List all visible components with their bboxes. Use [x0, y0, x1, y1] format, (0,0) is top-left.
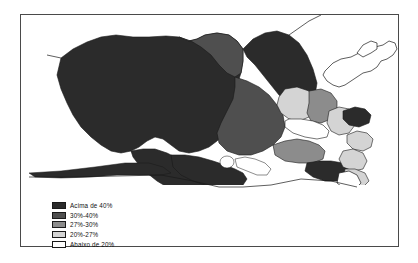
legend-row-30-40: 30%-40%	[52, 211, 142, 221]
map-legend: Acima de 40% 30%-40% 27%-30% 20%-27% Aba…	[52, 201, 142, 249]
region-sul-litoral-oeste	[29, 163, 171, 178]
legend-row-27-30: 27%-30%	[52, 220, 142, 230]
figure-container: Acima de 40% 30%-40% 27%-30% 20%-27% Aba…	[0, 0, 418, 263]
region-litoral-fingers-a	[347, 131, 373, 151]
region-litoral-leste-a	[273, 139, 325, 163]
region-ilha-nordeste	[323, 41, 397, 87]
legend-label-20-27: 20%-27%	[70, 231, 98, 238]
legend-swatch-27-30	[52, 221, 66, 228]
legend-swatch-abaixo-20	[52, 241, 66, 248]
legend-row-acima-40: Acima de 40%	[52, 201, 142, 211]
legend-label-30-40: 30%-40%	[70, 212, 98, 219]
legend-row-20-27: 20%-27%	[52, 230, 142, 240]
legend-label-abaixo-20: Abaixo de 20%	[70, 241, 114, 248]
water-lagoa	[220, 156, 234, 168]
legend-row-abaixo-20: Abaixo de 20%	[52, 239, 142, 249]
legend-label-acima-40: Acima de 40%	[70, 202, 112, 209]
legend-swatch-acima-40	[52, 202, 66, 209]
legend-label-27-30: 27%-30%	[70, 221, 98, 228]
boundary-oeste	[47, 55, 61, 58]
legend-swatch-30-40	[52, 212, 66, 219]
map-frame: Acima de 40% 30%-40% 27%-30% 20%-27% Aba…	[20, 14, 399, 247]
legend-swatch-20-27	[52, 231, 66, 238]
boundary-norte	[289, 15, 321, 35]
